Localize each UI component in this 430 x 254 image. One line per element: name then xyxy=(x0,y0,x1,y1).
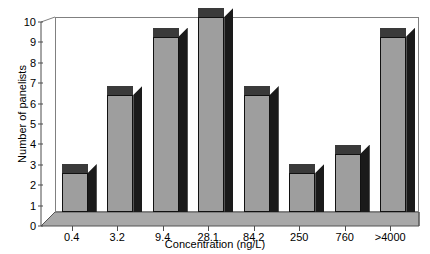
x-tick-mark xyxy=(208,226,209,231)
x-axis-tick-labels: 0.43.29.428.184.2250760>4000 xyxy=(0,0,430,254)
x-tick-mark xyxy=(390,226,391,231)
x-tick-mark xyxy=(163,226,164,231)
x-axis-title: Concentration (ng/L) xyxy=(0,238,430,250)
bar-chart: Number of panelists 012345678910 0.43.29… xyxy=(0,0,430,254)
x-tick-mark xyxy=(117,226,118,231)
x-tick-mark xyxy=(72,226,73,231)
x-tick-mark xyxy=(345,226,346,231)
x-tick-mark xyxy=(254,226,255,231)
x-tick-mark xyxy=(299,226,300,231)
